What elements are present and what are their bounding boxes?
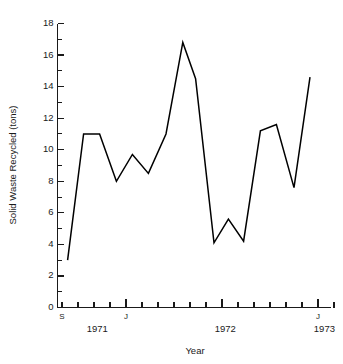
y-tick-label: 10: [43, 143, 54, 154]
x-axis-month-labels: SJJ: [59, 312, 320, 321]
y-tick-label: 0: [48, 301, 53, 312]
x-axis-year-labels: 197119721973: [87, 323, 335, 334]
x-year-label: 1971: [87, 323, 108, 334]
y-tick-label: 6: [48, 206, 53, 217]
y-tick-label: 12: [43, 112, 54, 123]
line-chart-svg: 024681012141618 SJJ 197119721973 Year So…: [0, 0, 343, 364]
y-tick-label: 14: [43, 80, 54, 91]
y-tick-label: 8: [48, 175, 53, 186]
x-axis-title: Year: [185, 345, 204, 356]
x-month-label: J: [316, 312, 320, 321]
x-year-label: 1972: [215, 323, 236, 334]
y-axis-tick-labels: 024681012141618: [43, 17, 54, 312]
x-month-label: S: [59, 312, 64, 321]
y-axis-ticks: [58, 24, 64, 308]
chart-container: 024681012141618 SJJ 197119721973 Year So…: [0, 0, 343, 364]
y-axis-title: Solid Waste Recycled (tons): [7, 106, 18, 225]
x-month-label: J: [124, 312, 128, 321]
y-tick-label: 2: [48, 269, 53, 280]
axes-group: [58, 24, 332, 308]
x-year-label: 1973: [314, 323, 335, 334]
y-tick-label: 18: [43, 17, 54, 28]
data-series-group: [68, 42, 310, 260]
x-axis-ticks: [62, 299, 334, 308]
y-tick-label: 4: [48, 238, 53, 249]
y-tick-label: 16: [43, 49, 54, 60]
data-line: [68, 42, 310, 260]
